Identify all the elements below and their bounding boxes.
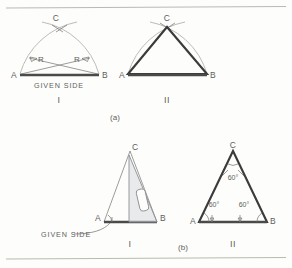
roman-numeral-b-II: II [230, 239, 236, 249]
arc-from-b [42, 22, 99, 74]
radius-label-left: R [38, 55, 44, 64]
point-label-b: B [102, 70, 108, 80]
point-label-c: C [53, 13, 59, 23]
point-label-b-3: B [160, 213, 166, 223]
angle-label-b: 60° [239, 201, 250, 208]
point-label-a-4: A [190, 216, 196, 226]
point-label-a-3: A [95, 213, 101, 223]
given-side-caption: GIVEN SIDE [34, 81, 84, 90]
radius-label-right: R [74, 55, 80, 64]
given-side-caption-2: GIVEN SIDE [41, 230, 91, 239]
top-rule [6, 7, 286, 9]
part-label-a: (a) [110, 113, 120, 122]
arc-from-b-2 [150, 22, 207, 74]
point-label-a: A [11, 70, 17, 80]
panel-a-II: C A B II [119, 13, 216, 105]
roman-numeral-a-I: I [57, 95, 60, 105]
angle-arc-a-4 [204, 213, 209, 222]
angle-arc-b-4 [257, 213, 262, 222]
panel-a-I: C A B R R GIVEN SIDE I [11, 13, 108, 105]
figure-page: C A B R R GIVEN SIDE I C A B II (a) [0, 0, 292, 268]
point-label-c-3: C [132, 142, 138, 152]
point-label-b-4: B [270, 216, 276, 226]
angle-label-a: 60° [209, 201, 220, 208]
panel-b-I: C A B GIVEN SIDE I [41, 142, 166, 249]
point-label-c-2: C [164, 13, 170, 23]
arc-from-a [20, 22, 77, 74]
part-label-b: (b) [178, 243, 188, 252]
roman-numeral-a-II: II [164, 95, 170, 105]
angle-label-c: 60° [228, 174, 239, 181]
arc-from-a-2 [128, 22, 185, 74]
triangle-outline-2 [199, 151, 267, 222]
angle-arc-c-4 [228, 164, 238, 165]
point-label-b-2: B [210, 70, 216, 80]
point-label-c-4: C [230, 140, 236, 150]
bottom-rule [6, 258, 286, 260]
point-label-a-2: A [119, 70, 125, 80]
panel-b-II: C A B 60° 60° 60° II [190, 140, 276, 249]
roman-numeral-b-I: I [128, 239, 131, 249]
